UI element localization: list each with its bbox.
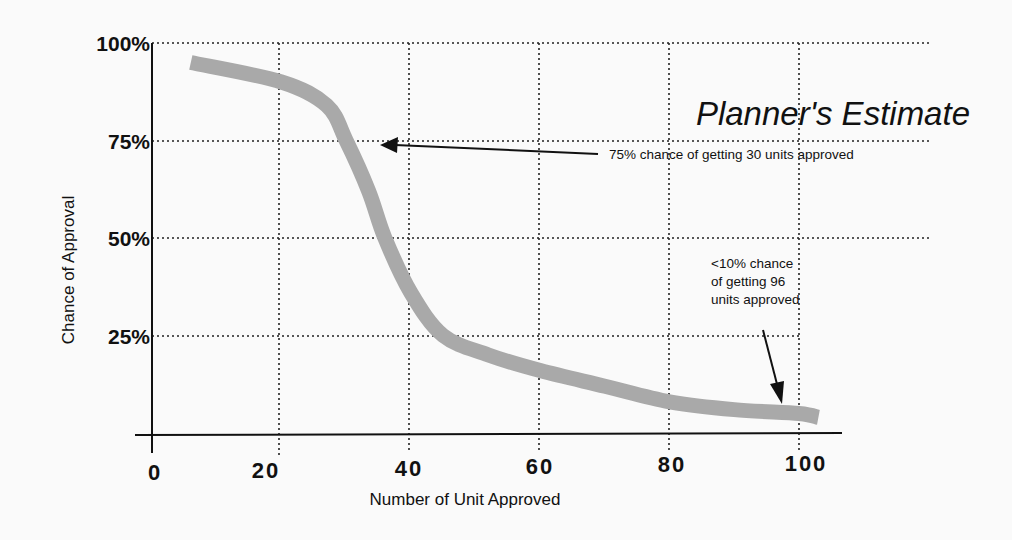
y-tick-75: 75% — [108, 130, 150, 153]
y-axis-label: Chance of Approval — [59, 196, 78, 344]
y-tick-100: 100% — [96, 32, 150, 55]
y-tick-50: 50% — [108, 227, 150, 250]
annotation-10-line-3: units approved — [711, 292, 800, 307]
x-tick-40: 40 — [395, 456, 423, 481]
chart-title: Planner's Estimate — [696, 95, 970, 132]
annotation-10-line-2: of getting 96 — [711, 274, 785, 289]
y-tick-25: 25% — [108, 325, 150, 348]
annotation-75-arrow — [380, 137, 598, 154]
x-tick-80: 80 — [658, 452, 686, 477]
x-tick-60: 60 — [526, 454, 554, 479]
x-tick-100: 100 — [785, 451, 828, 476]
x-tick-0: 0 — [148, 460, 162, 485]
annotation-10-arrow — [763, 330, 784, 404]
annotation-10-line-1: <10% chance — [711, 256, 793, 271]
x-axis-label: Number of Unit Approved — [370, 490, 561, 509]
x-tick-20: 20 — [252, 458, 280, 483]
chart: 100% 75% 50% 25% 0 20 40 60 80 100 Numbe… — [0, 0, 1012, 540]
x-axis — [135, 433, 842, 435]
annotation-75-text: 75% chance of getting 30 units approved — [609, 147, 854, 162]
